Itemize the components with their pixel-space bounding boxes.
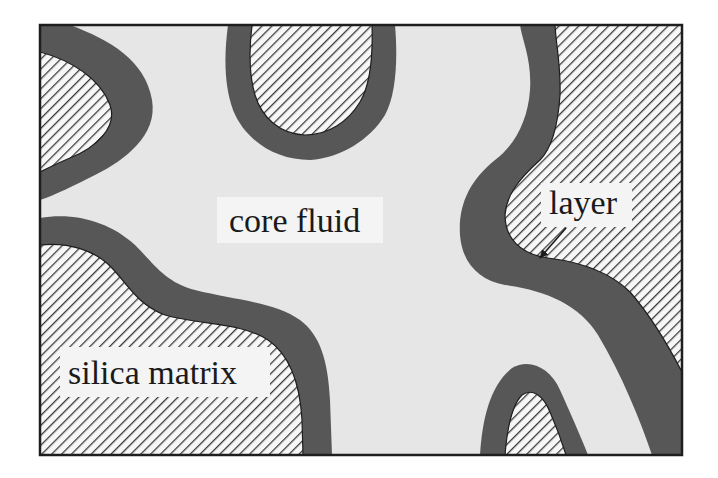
- label-core-fluid-text: core fluid: [229, 202, 360, 239]
- porous-medium-diagram: core fluid layer silica matrix: [0, 0, 718, 478]
- label-silica-matrix: silica matrix: [60, 347, 270, 397]
- label-core-fluid: core fluid: [217, 197, 383, 243]
- label-layer-text: layer: [549, 184, 618, 221]
- diagram-canvas: core fluid layer silica matrix: [0, 0, 718, 478]
- label-layer: layer: [541, 183, 632, 227]
- label-silica-matrix-text: silica matrix: [68, 354, 237, 391]
